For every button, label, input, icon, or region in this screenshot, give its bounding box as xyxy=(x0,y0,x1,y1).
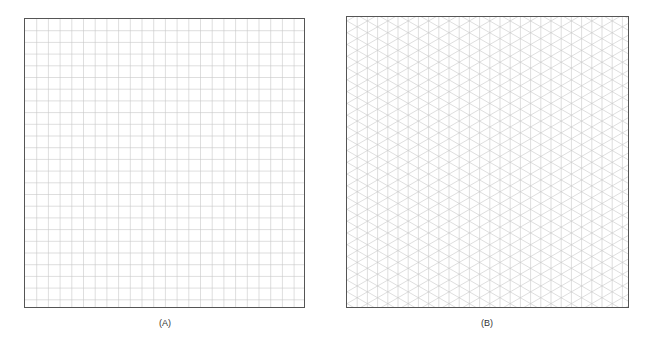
caption-b: (B) xyxy=(467,318,507,328)
caption-a: (A) xyxy=(145,318,185,328)
square-grid-panel xyxy=(24,18,305,308)
square-grid xyxy=(25,19,305,308)
isometric-grid xyxy=(347,17,629,308)
isometric-grid-panel xyxy=(346,16,629,308)
